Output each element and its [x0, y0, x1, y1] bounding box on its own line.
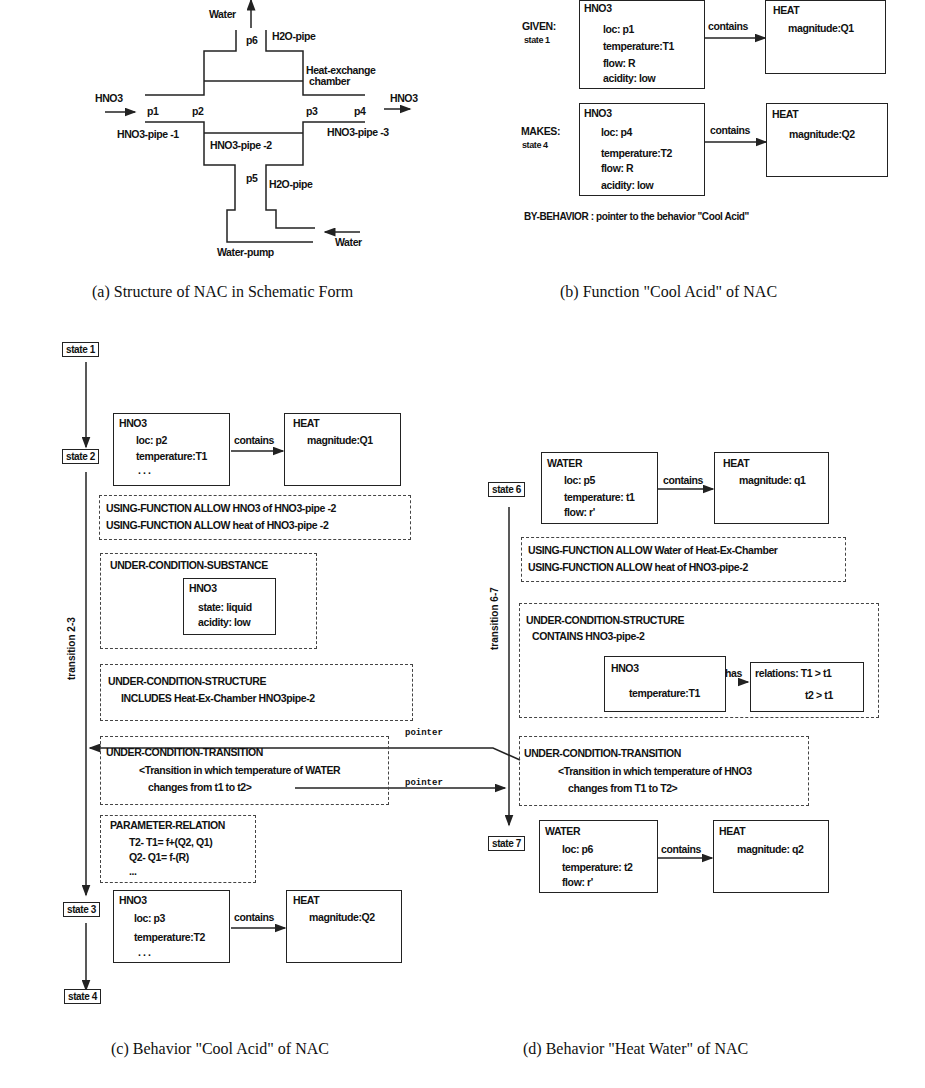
- parameter-relation-box: PARAMETER-RELATION T2- T1= f+(Q2, Q1) Q2…: [100, 815, 256, 883]
- by-behavior-pointer: BY-BEHAVIOR : pointer to the behavior "C…: [524, 210, 749, 223]
- given-heat-box: HEAT magnitude:Q1: [765, 0, 886, 74]
- state6-water-box: WATER loc: p5 temperature: t1 flow: r': [541, 452, 658, 524]
- under-condition-transition-box: UNDER-CONDITION-TRANSITION <Transition i…: [100, 736, 389, 805]
- ucstr-title: UNDER-CONDITION-STRUCTURE: [108, 675, 266, 688]
- uct-title: UNDER-CONDITION-TRANSITION: [524, 747, 681, 760]
- substance-title: HNO3: [189, 582, 217, 595]
- uct-line: changes from T1 to T2>: [568, 782, 677, 795]
- heat-title: HEAT: [293, 894, 319, 907]
- pipe2-label: HNO3-pipe -2: [210, 139, 272, 152]
- contains-label: contains: [708, 20, 748, 33]
- caption-a: (a) Structure of NAC in Schematic Form: [92, 283, 353, 301]
- using-function-line: USING-FUNCTION ALLOW heat of HNO3-pipe-2: [528, 561, 748, 574]
- makes-state: state 4: [522, 139, 548, 152]
- state2-heat-box: HEAT magnitude:Q1: [284, 413, 401, 486]
- state-1-node: state 1: [62, 342, 99, 357]
- attr-temperature: temperature:T1: [136, 450, 207, 463]
- transition-2-3-label: transition 2-3: [66, 617, 77, 680]
- pr-line: Q2- Q1= f-(R): [129, 851, 189, 864]
- attr-magnitude: magnitude:Q2: [309, 911, 375, 924]
- water-out-label: Water: [209, 8, 236, 21]
- heat-title: HEAT: [293, 417, 319, 430]
- attr-magnitude: magnitude:Q2: [789, 128, 855, 141]
- caption-c: (c) Behavior "Cool Acid" of NAC: [111, 1040, 329, 1058]
- attr-magnitude: magnitude: q1: [739, 474, 806, 487]
- caption-d: (d) Behavior "Heat Water" of NAC: [523, 1040, 748, 1058]
- given-substance-box: HNO3 loc: p1 temperature:T1 flow: R acid…: [579, 0, 705, 89]
- substance-title: HNO3: [119, 894, 147, 907]
- ucstr-includes: INCLUDES Heat-Ex-Chamber HNO3pipe-2: [121, 692, 315, 705]
- state3-heat-box: HEAT magnitude:Q2: [286, 890, 402, 963]
- substance-title: HNO3: [119, 417, 147, 430]
- attr-magnitude: magnitude:Q1: [307, 434, 373, 447]
- using-function-box: USING-FUNCTION ALLOW HNO3 of HNO3-pipe -…: [99, 495, 411, 540]
- water-in-label: Water: [335, 236, 362, 249]
- under-condition-structure-box: UNDER-CONDITION-STRUCTURE INCLUDES Heat-…: [100, 664, 413, 721]
- attr-acidity: acidity: low: [603, 72, 655, 85]
- transition-6-7-label: transition 6-7: [489, 587, 500, 650]
- hno3-in-label: HNO3: [95, 92, 123, 105]
- using-function-box: USING-FUNCTION ALLOW Water of Heat-Ex-Ch…: [521, 537, 846, 582]
- attr-magnitude: magnitude: q2: [737, 843, 804, 856]
- h2o-pipe-top-label: H2O-pipe: [272, 30, 315, 43]
- attr-loc: loc: p3: [134, 912, 165, 925]
- substance-title: HNO3: [584, 2, 612, 15]
- p5-label: p5: [246, 172, 257, 185]
- contains-label: contains: [234, 911, 274, 924]
- p3-label: p3: [306, 105, 317, 118]
- ucstr-contains: CONTAINS HNO3-pipe-2: [532, 630, 645, 643]
- chamber-label-2: chamber: [309, 75, 350, 88]
- attr-loc: loc: p2: [136, 434, 167, 447]
- attr-temperature: temperature: t1: [564, 491, 634, 504]
- substance-title: WATER: [545, 825, 580, 838]
- p1-label: p1: [147, 105, 158, 118]
- attr-acidity: acidity: low: [198, 616, 250, 629]
- attr-state: state: liquid: [198, 601, 252, 614]
- using-function-line: USING-FUNCTION ALLOW heat of HNO3-pipe -…: [106, 519, 328, 532]
- pipe1-label: HNO3-pipe -1: [117, 128, 179, 141]
- uct-title: UNDER-CONDITION-TRANSITION: [106, 746, 263, 759]
- attr-flow: flow: R: [601, 162, 633, 175]
- attr-loc: loc: p5: [564, 474, 595, 487]
- using-function-line: USING-FUNCTION ALLOW Water of Heat-Ex-Ch…: [528, 544, 778, 557]
- ellipsis: . . .: [138, 946, 151, 959]
- pr-line: ...: [129, 865, 137, 878]
- ucstr-inner-hno3-box: HNO3 temperature:T1: [604, 656, 726, 712]
- contains-label: contains: [663, 474, 703, 487]
- p2-label: p2: [192, 105, 203, 118]
- attr-temperature: temperature: t2: [562, 861, 632, 874]
- state-2-node: state 2: [62, 449, 99, 464]
- state-4-node: state 4: [64, 989, 101, 1004]
- attr-magnitude: magnitude:Q1: [788, 22, 854, 35]
- ucs-inner-box: HNO3 state: liquid acidity: low: [183, 578, 276, 635]
- uct-line: <Transition in which temperature of WATE…: [139, 764, 340, 777]
- ucs-title: UNDER-CONDITION-SUBSTANCE: [110, 559, 268, 572]
- uct-line: <Transition in which temperature of HNO3: [558, 765, 752, 778]
- hno3-out-label: HNO3: [390, 92, 418, 105]
- pr-line: T2- T1= f+(Q2, Q1): [129, 836, 212, 849]
- state2-substance-box: HNO3 loc: p2 temperature:T1 . . .: [113, 413, 230, 486]
- has-label: has: [725, 667, 742, 680]
- pr-title: PARAMETER-RELATION: [110, 819, 225, 832]
- makes-substance-box: HNO3 loc: p4 temperature:T2 flow: R acid…: [579, 103, 705, 196]
- attr-flow: flow: r': [562, 876, 593, 889]
- heat-title: HEAT: [772, 108, 798, 121]
- p6-label: p6: [246, 34, 257, 47]
- contains-label: contains: [710, 124, 750, 137]
- attr-temperature: temperature:T2: [601, 147, 672, 160]
- pointer-label-bottom: pointer: [405, 778, 443, 788]
- substance-title: HNO3: [611, 662, 639, 675]
- contains-label: contains: [661, 843, 701, 856]
- pointer-label-top: pointer: [405, 728, 443, 738]
- attr-temperature: temperature:T1: [629, 687, 700, 700]
- contains-label: contains: [234, 434, 274, 447]
- state3-substance-box: HNO3 loc: p3 temperature:T2 . . .: [113, 890, 230, 963]
- caption-b: (b) Function "Cool Acid" of NAC: [560, 283, 777, 301]
- uct-line: changes from t1 to t2>: [148, 781, 252, 794]
- attr-loc: loc: p1: [603, 23, 634, 36]
- given-state: state 1: [524, 34, 550, 47]
- relations-line: relations: T1 > t1: [755, 667, 832, 680]
- attr-acidity: acidity: low: [601, 179, 653, 192]
- state7-heat-box: HEAT magnitude: q2: [713, 820, 829, 893]
- p4-label: p4: [354, 105, 365, 118]
